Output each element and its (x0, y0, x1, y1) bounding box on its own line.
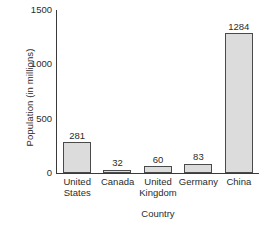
bar-canada[interactable] (103, 170, 131, 173)
x-axis-line (57, 173, 259, 174)
bar-group-united-kingdom[interactable]: 60 (138, 10, 178, 173)
bars-layer: 281 32 60 83 1284 (57, 10, 259, 173)
x-label-china: China (215, 176, 263, 187)
bar-group-germany[interactable]: 83 (178, 10, 218, 173)
x-axis-title: Country (57, 208, 259, 219)
x-label-united-states-line2: States (53, 187, 101, 198)
x-label-united-kingdom-line2: Kingdom (134, 187, 182, 198)
x-label-china-line1: China (215, 176, 263, 187)
bar-group-china[interactable]: 1284 (219, 10, 259, 173)
x-axis-category-labels: United States Canada United Kingdom Germ… (57, 176, 259, 204)
bar-germany[interactable] (184, 164, 212, 173)
bar-united-kingdom[interactable] (144, 166, 172, 173)
bar-value-canada: 32 (97, 158, 137, 168)
bar-value-china: 1284 (219, 22, 259, 32)
bar-china[interactable] (225, 33, 253, 173)
bar-value-germany: 83 (178, 152, 218, 162)
bar-group-united-states[interactable]: 281 (57, 10, 97, 173)
bar-group-canada[interactable]: 32 (97, 10, 137, 173)
y-axis-title: Population (in millions) (24, 18, 35, 178)
bar-value-united-kingdom: 60 (138, 155, 178, 165)
bar-chart: Population (in millions) 1500 1000 500 0… (0, 0, 267, 227)
y-tick-label-1500: 1500 (8, 5, 52, 15)
bar-united-states[interactable] (63, 142, 91, 173)
bar-value-united-states: 281 (57, 131, 97, 141)
